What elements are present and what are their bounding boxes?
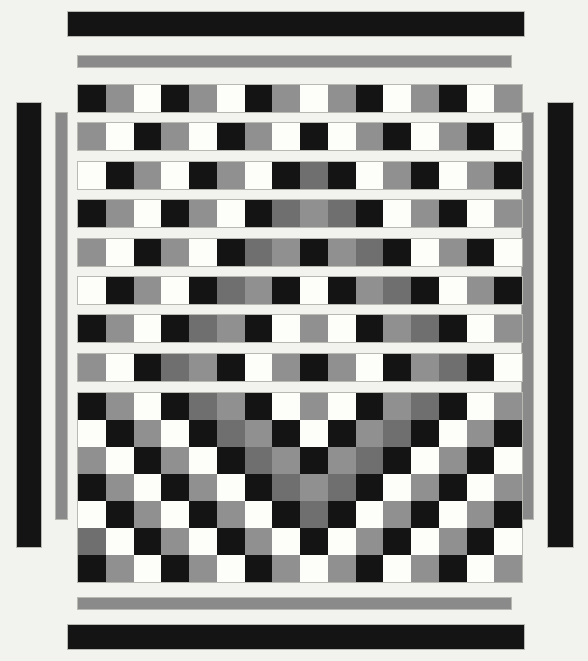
pattern-cell xyxy=(356,277,384,304)
pattern-cell xyxy=(439,555,467,582)
pattern-row xyxy=(77,353,523,382)
pattern-cell xyxy=(134,200,162,227)
pattern-cell xyxy=(300,354,328,381)
pattern-cell xyxy=(439,239,467,266)
pattern-cell xyxy=(356,393,384,420)
pattern-cell xyxy=(411,123,439,150)
pattern-cell xyxy=(134,123,162,150)
pattern-cell xyxy=(161,528,189,555)
pattern-block-grid xyxy=(77,392,523,583)
pattern-cell xyxy=(328,501,356,528)
pattern-cell xyxy=(328,123,356,150)
pattern-cell xyxy=(161,200,189,227)
pattern-cell xyxy=(383,447,411,474)
pattern-cell xyxy=(272,447,300,474)
pattern-cell xyxy=(494,85,522,112)
pattern-cell xyxy=(356,420,384,447)
pattern-cell xyxy=(106,200,134,227)
pattern-cell xyxy=(356,200,384,227)
pattern-cell xyxy=(328,85,356,112)
pattern-cell xyxy=(411,277,439,304)
left-black-bar xyxy=(16,102,42,548)
pattern-cell xyxy=(494,555,522,582)
pattern-cell xyxy=(161,277,189,304)
pattern-cell xyxy=(272,162,300,189)
pattern-cell xyxy=(383,315,411,342)
pattern-cell xyxy=(217,315,245,342)
pattern-cell xyxy=(189,393,217,420)
pattern-cell xyxy=(383,501,411,528)
pattern-cell xyxy=(189,123,217,150)
pattern-cell xyxy=(272,474,300,501)
pattern-cell xyxy=(494,420,522,447)
pattern-cell xyxy=(78,162,106,189)
pattern-cell xyxy=(439,162,467,189)
pattern-cell xyxy=(383,555,411,582)
pattern-cell xyxy=(439,123,467,150)
pattern-cell xyxy=(300,162,328,189)
pattern-cell xyxy=(494,162,522,189)
pattern-cell xyxy=(300,501,328,528)
pattern-cell xyxy=(189,555,217,582)
pattern-cell xyxy=(217,555,245,582)
pattern-cell xyxy=(134,277,162,304)
pattern-cell xyxy=(161,239,189,266)
pattern-cell xyxy=(161,447,189,474)
pattern-cell xyxy=(189,354,217,381)
pattern-cell xyxy=(217,501,245,528)
pattern-cell xyxy=(328,393,356,420)
pattern-cell xyxy=(106,420,134,447)
pattern-cell xyxy=(328,474,356,501)
pattern-cell xyxy=(411,393,439,420)
pattern-row xyxy=(77,314,523,343)
pattern-block-row xyxy=(78,393,522,420)
pattern-cell xyxy=(383,420,411,447)
pattern-cell xyxy=(383,528,411,555)
pattern-cell xyxy=(439,315,467,342)
pattern-cell xyxy=(300,393,328,420)
pattern-cell xyxy=(411,200,439,227)
pattern-row xyxy=(77,161,523,190)
pattern-cell xyxy=(439,528,467,555)
pattern-cell xyxy=(106,315,134,342)
pattern-cell xyxy=(411,85,439,112)
pattern-cell xyxy=(134,85,162,112)
pattern-cell xyxy=(272,354,300,381)
pattern-cell xyxy=(217,474,245,501)
right-black-bar xyxy=(547,102,574,548)
pattern-cell xyxy=(245,354,273,381)
pattern-cell xyxy=(78,393,106,420)
pattern-row xyxy=(77,199,523,228)
pattern-cell xyxy=(189,162,217,189)
pattern-cell xyxy=(467,555,495,582)
pattern-cell xyxy=(272,315,300,342)
pattern-cell xyxy=(411,315,439,342)
pattern-cell xyxy=(383,393,411,420)
pattern-cell xyxy=(300,85,328,112)
pattern-cell xyxy=(134,162,162,189)
pattern-cell xyxy=(467,85,495,112)
pattern-cell xyxy=(328,200,356,227)
pattern-cell xyxy=(439,393,467,420)
pattern-cell xyxy=(300,239,328,266)
pattern-cell xyxy=(383,277,411,304)
left-gray-bar xyxy=(55,112,68,520)
pattern-cell xyxy=(189,85,217,112)
pattern-cell xyxy=(467,474,495,501)
pattern-cell xyxy=(106,239,134,266)
pattern-cell xyxy=(78,354,106,381)
pattern-cell xyxy=(245,123,273,150)
pattern-cell xyxy=(217,162,245,189)
pattern-cell xyxy=(78,239,106,266)
pattern-cell xyxy=(439,85,467,112)
pattern-cell xyxy=(494,315,522,342)
pattern-cell xyxy=(134,528,162,555)
pattern-cell xyxy=(383,162,411,189)
pattern-cell xyxy=(467,501,495,528)
pattern-cell xyxy=(356,447,384,474)
pattern-cell xyxy=(300,277,328,304)
pattern-cell xyxy=(356,315,384,342)
pattern-cell xyxy=(106,555,134,582)
pattern-cell xyxy=(245,315,273,342)
pattern-block-row xyxy=(78,447,522,474)
